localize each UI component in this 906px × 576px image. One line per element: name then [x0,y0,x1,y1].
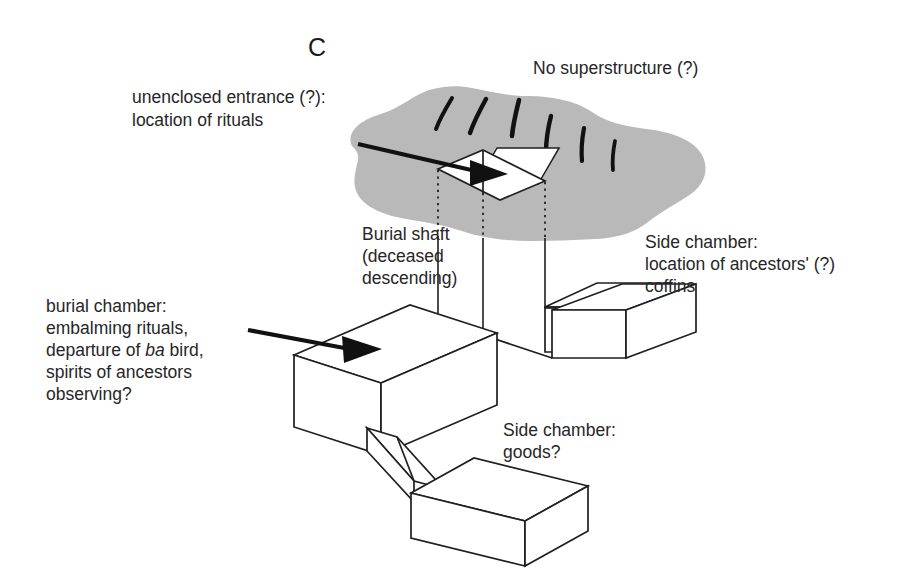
label-unenclosed-entrance-line2: location of rituals [132,110,264,130]
label-burial-chamber-line1: burial chamber: [46,296,167,316]
label-side-chamber-coffins-line2: location of ancestors' (?) [645,254,835,274]
label-burial-chamber-line3: departure of ba bird, [46,340,204,360]
label-burial-chamber-line4: spirits of ancestors [46,362,192,382]
label-burial-chamber-line2: embalming rituals, [46,318,188,338]
label-burial-shaft-line3: descending) [362,268,457,288]
label-side-chamber-goods-line2: goods? [503,442,561,462]
panel-letter: C [308,33,326,61]
label-side-chamber-goods-line1: Side chamber: [503,420,616,440]
label-burial-shaft-line1: Burial shaft [362,224,450,244]
label-burial-chamber-line5: observing? [46,384,132,404]
label-burial-chamber-line3-part-c: bird, [165,340,204,360]
label-side-chamber-coffins-line1: Side chamber: [645,232,758,252]
tomb-section-diagram: C No superstructure (?) unenclosed entra… [0,0,906,576]
label-unenclosed-entrance-line1: unenclosed entrance (?): [132,87,326,107]
label-side-chamber-coffins-line3: coffins [645,276,696,296]
label-no-superstructure: No superstructure (?) [533,58,698,78]
label-burial-chamber-ba-italic: ba [145,340,165,360]
label-burial-chamber-line3-part-a: departure of [46,340,145,360]
label-burial-shaft-line2: (deceased [362,246,444,266]
